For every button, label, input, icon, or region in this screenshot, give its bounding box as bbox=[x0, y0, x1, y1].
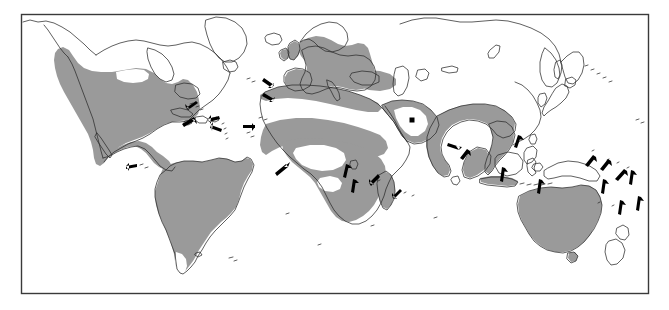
point-locality-layer bbox=[410, 118, 415, 123]
map-canvas bbox=[0, 0, 669, 310]
dot-arabia bbox=[410, 118, 415, 123]
world-distribution-map bbox=[0, 0, 669, 310]
